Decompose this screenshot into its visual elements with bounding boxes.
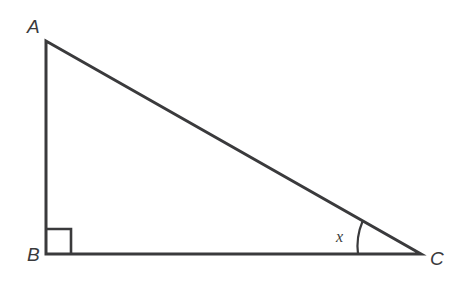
geometry-diagram: A B C x	[0, 0, 460, 284]
triangle-outline-path	[46, 41, 421, 254]
vertex-label-a: A	[27, 17, 40, 36]
angle-arc-icon	[358, 222, 363, 255]
angle-label-x: x	[336, 229, 343, 245]
vertex-label-c: C	[430, 249, 444, 268]
vertex-label-b: B	[27, 245, 40, 264]
right-angle-marker-icon	[46, 229, 71, 254]
triangle-figure	[0, 0, 460, 284]
